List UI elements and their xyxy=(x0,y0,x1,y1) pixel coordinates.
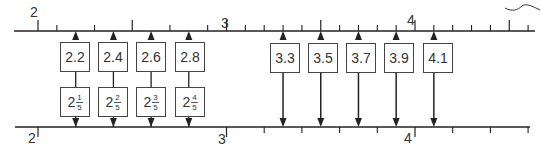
fraction: 35 xyxy=(152,93,158,112)
decimal-box-3-9: 3.9 xyxy=(384,43,414,73)
top-label-2: 2 xyxy=(30,4,38,20)
fraction: 15 xyxy=(76,93,82,112)
numerator: 2 xyxy=(114,93,120,103)
number-lines-svg xyxy=(0,0,541,152)
denominator: 5 xyxy=(115,103,119,112)
fraction-box-2-2-5: 2 25 xyxy=(98,87,128,117)
axis-lines xyxy=(14,20,535,137)
decimal-box-3-5: 3.5 xyxy=(308,43,338,73)
fraction-whole: 2 xyxy=(182,94,190,110)
numerator: 1 xyxy=(76,93,82,103)
fraction-whole: 2 xyxy=(105,94,113,110)
numerator: 3 xyxy=(152,93,158,103)
bottom-label-4: 4 xyxy=(404,130,412,146)
fraction: 45 xyxy=(191,93,197,112)
fraction-box-2-1-5: 2 15 xyxy=(60,87,90,117)
denominator: 5 xyxy=(192,103,196,112)
decimal-box-2-2: 2.2 xyxy=(60,42,90,72)
decimal-box-2-6: 2.6 xyxy=(136,42,166,72)
top-label-3: 3 xyxy=(221,15,229,31)
denominator: 5 xyxy=(77,103,81,112)
corner-squiggle xyxy=(505,5,540,10)
bottom-label-2: 2 xyxy=(28,130,36,146)
top-label-4: 4 xyxy=(407,12,415,28)
fraction: 25 xyxy=(114,93,120,112)
fraction-box-2-4-5: 2 45 xyxy=(175,87,205,117)
denominator: 5 xyxy=(153,103,157,112)
decimal-box-2-8: 2.8 xyxy=(175,42,205,72)
number-line-diagram: 2 3 4 2 3 4 2.2 2.4 2.6 2.8 3.3 3.5 3.7 … xyxy=(0,0,541,152)
fraction-box-2-3-5: 2 35 xyxy=(136,87,166,117)
decimal-box-4-1: 4.1 xyxy=(423,43,453,73)
fraction-whole: 2 xyxy=(143,94,151,110)
decimal-box-3-7: 3.7 xyxy=(346,43,376,73)
decimal-box-2-4: 2.4 xyxy=(98,42,128,72)
decimal-box-3-3: 3.3 xyxy=(270,43,300,73)
numerator: 4 xyxy=(191,93,197,103)
bottom-label-3: 3 xyxy=(218,131,226,147)
fraction-whole: 2 xyxy=(67,94,75,110)
